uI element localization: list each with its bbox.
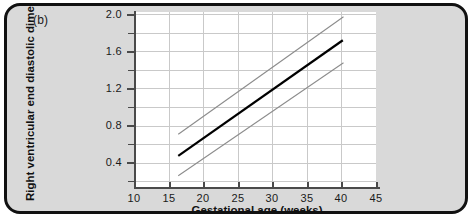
y-axis-tick bbox=[127, 162, 134, 164]
y-axis-tick bbox=[127, 88, 134, 90]
series-line-upper-centile bbox=[178, 17, 343, 135]
y-axis-minor-tick bbox=[128, 70, 134, 71]
x-axis-tick bbox=[272, 182, 274, 189]
y-axis-tick-label: 0.4 bbox=[106, 156, 122, 168]
x-axis-tick bbox=[376, 182, 378, 189]
series-line-mean bbox=[178, 40, 343, 156]
x-axis-tick-label: 20 bbox=[188, 192, 218, 204]
x-axis-tick-label: 40 bbox=[326, 192, 356, 204]
x-axis-tick bbox=[134, 182, 136, 189]
y-axis-tick-label: 1.2 bbox=[106, 82, 122, 94]
y-axis-minor-tick bbox=[128, 107, 134, 108]
y-axis-line bbox=[134, 11, 136, 188]
y-axis-tick-label: 1.6 bbox=[106, 45, 122, 57]
x-axis-tick bbox=[203, 182, 205, 189]
series-line-lower-centile bbox=[178, 63, 343, 176]
y-axis-minor-tick bbox=[128, 144, 134, 145]
y-axis-tick bbox=[127, 51, 134, 53]
figure-card: (b) bbox=[4, 3, 468, 214]
y-axis-tick bbox=[127, 125, 134, 127]
x-axis-tick-label: 15 bbox=[154, 192, 184, 204]
y-axis-title: Right ventricular end diastolic dimensio… bbox=[24, 5, 36, 201]
series-lines bbox=[134, 12, 376, 187]
y-axis-tick-label: 2.0 bbox=[106, 8, 122, 20]
y-axis-tick-label: 0.8 bbox=[106, 119, 122, 131]
x-axis-title: Gestational age (weeks) bbox=[134, 204, 380, 214]
y-axis-minor-tick bbox=[128, 33, 134, 34]
x-axis-tick-label: 30 bbox=[257, 192, 287, 204]
x-axis-tick-label: 45 bbox=[361, 192, 391, 204]
x-axis-tick bbox=[341, 182, 343, 189]
x-axis-tick-label: 25 bbox=[223, 192, 253, 204]
plot-area bbox=[134, 12, 376, 187]
x-axis-tick bbox=[307, 182, 309, 189]
x-axis-tick-label: 35 bbox=[292, 192, 322, 204]
line-chart: 2.0 1.6 1.2 0.8 0.4 10 15 20 25 30 35 40… bbox=[7, 6, 468, 214]
x-axis-tick bbox=[169, 182, 171, 189]
y-axis-tick bbox=[127, 14, 134, 16]
x-axis-tick bbox=[238, 182, 240, 189]
x-axis-tick-label: 10 bbox=[119, 192, 149, 204]
